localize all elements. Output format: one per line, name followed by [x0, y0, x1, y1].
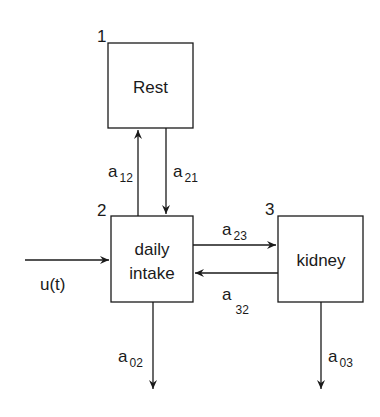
- flow-a21: a21: [166, 128, 198, 214]
- flow-label-a32: a32: [222, 285, 249, 317]
- flow-label-a21: a21: [173, 162, 198, 185]
- flow-label-a03: a03: [328, 347, 353, 370]
- compartment-number-2: 2: [97, 201, 106, 220]
- flow-a12: a12: [108, 130, 138, 216]
- compartment-label-intake: intake: [129, 264, 174, 283]
- compartment-label-rest: Rest: [133, 78, 168, 97]
- input-u-t: u(t): [25, 260, 109, 294]
- flow-a03: a03: [321, 302, 353, 389]
- flow-label-a12: a12: [108, 162, 133, 185]
- input-label: u(t): [40, 275, 66, 294]
- flow-label-a23: a23: [222, 220, 247, 243]
- compartment-daily-intake: 2 daily intake: [97, 201, 193, 302]
- flow-a02: a02: [118, 302, 153, 389]
- compartment-rest: 1 Rest: [97, 27, 193, 128]
- flow-label-a02: a02: [118, 347, 143, 370]
- flow-a23: a23: [193, 220, 276, 245]
- compartment-label-kidney: kidney: [296, 251, 346, 270]
- compartment-diagram: 1 Rest 2 daily intake 3 kidney a12 a21 a…: [0, 0, 380, 417]
- compartment-number-1: 1: [97, 27, 106, 46]
- flow-a32: a32: [195, 273, 278, 317]
- compartment-kidney: 3 kidney: [265, 200, 363, 302]
- compartment-label-daily: daily: [135, 240, 170, 259]
- compartment-number-3: 3: [265, 200, 274, 219]
